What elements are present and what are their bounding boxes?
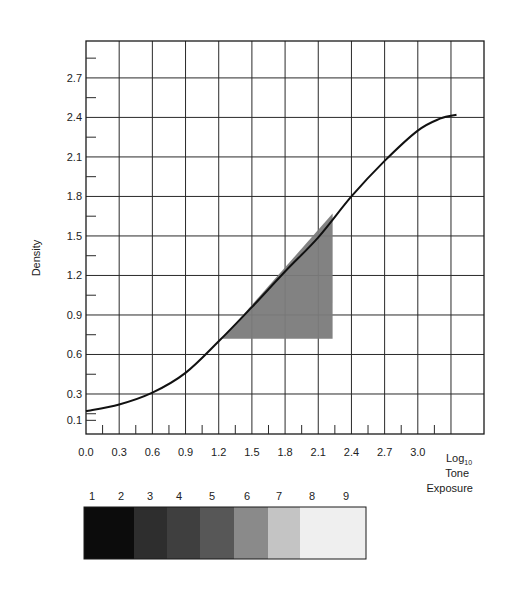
x-tick-label: 1.8 bbox=[277, 446, 292, 458]
y-tick-label: 0.6 bbox=[67, 348, 82, 360]
x-tick-label: 2.4 bbox=[344, 446, 359, 458]
y-axis-ticks: 0.10.30.60.91.21.51.82.12.42.7 bbox=[67, 58, 96, 426]
x-axis-label-tone: Tone bbox=[445, 467, 469, 479]
density-curve bbox=[86, 115, 457, 411]
y-tick-label: 0.1 bbox=[67, 414, 82, 426]
grid bbox=[86, 41, 484, 434]
y-tick-label: 1.8 bbox=[67, 190, 82, 202]
x-axis-label-log: Log10 bbox=[446, 452, 472, 466]
y-tick-label: 0.9 bbox=[67, 309, 82, 321]
x-tick-label: 0.0 bbox=[78, 446, 93, 458]
x-tick-label: 0.9 bbox=[178, 446, 193, 458]
x-tick-label: 1.5 bbox=[244, 446, 259, 458]
gray-step-label: 6 bbox=[244, 490, 250, 502]
y-tick-label: 1.2 bbox=[67, 269, 82, 281]
x-tick-label: 2.1 bbox=[311, 446, 326, 458]
gray-step-label: 8 bbox=[309, 490, 315, 502]
x-tick-label: 3.0 bbox=[410, 446, 425, 458]
gray-step-5 bbox=[200, 507, 234, 559]
y-tick-label: 2.7 bbox=[67, 72, 82, 84]
x-axis-label-log-text: Log bbox=[446, 452, 464, 464]
gray-step-1-2 bbox=[84, 507, 134, 559]
gray-step-label: 4 bbox=[176, 490, 182, 502]
gray-step-8-9 bbox=[300, 507, 366, 559]
x-axis-label: Log10 Tone Exposure bbox=[427, 452, 473, 494]
y-tick-label: 2.4 bbox=[67, 111, 82, 123]
density-curve-line bbox=[86, 115, 457, 411]
x-tick-label: 0.3 bbox=[112, 446, 127, 458]
gray-step-4 bbox=[167, 507, 200, 559]
x-tick-label: 0.6 bbox=[145, 446, 160, 458]
gray-step-label: 2 bbox=[118, 490, 124, 502]
x-axis-ticks: 0.00.30.60.91.21.51.82.12.42.73.0 bbox=[78, 425, 434, 458]
gray-step-6 bbox=[234, 507, 268, 559]
gray-step-label: 1 bbox=[89, 490, 95, 502]
y-tick-label: 0.3 bbox=[67, 388, 82, 400]
gray-step-3 bbox=[134, 507, 167, 559]
gray-step-label: 3 bbox=[147, 490, 153, 502]
gray-step-label: 5 bbox=[209, 490, 215, 502]
characteristic-curve-chart: 0.10.30.60.91.21.51.82.12.42.7 0.00.30.6… bbox=[0, 0, 512, 592]
x-axis-label-exposure: Exposure bbox=[427, 482, 473, 494]
x-axis-label-subscript: 10 bbox=[464, 459, 472, 466]
y-tick-label: 1.5 bbox=[67, 230, 82, 242]
y-axis-label: Density bbox=[30, 239, 42, 276]
gray-scale-labels: 123456789 bbox=[89, 490, 349, 502]
y-tick-label: 2.1 bbox=[67, 151, 82, 163]
x-tick-label: 2.7 bbox=[377, 446, 392, 458]
gray-step-label: 9 bbox=[343, 490, 349, 502]
gray-step-label: 7 bbox=[276, 490, 282, 502]
gray-step-7 bbox=[268, 507, 300, 559]
x-tick-label: 1.2 bbox=[211, 446, 226, 458]
gray-scale-strip bbox=[84, 507, 366, 559]
chart-canvas: 0.10.30.60.91.21.51.82.12.42.7 0.00.30.6… bbox=[0, 0, 512, 592]
